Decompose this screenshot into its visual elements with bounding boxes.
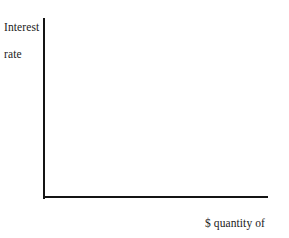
vertical-axis-label-line1: Interest xyxy=(4,21,42,35)
vertical-axis-label: Interest rate xyxy=(4,7,42,75)
vertical-axis-label-line2: rate xyxy=(4,48,42,62)
horizontal-axis-label-line1: $ quantity of xyxy=(186,217,284,231)
horizontal-axis-label: $ quantity of loanable funds xyxy=(186,203,284,238)
horizontal-axis-line xyxy=(43,196,268,198)
figure-canvas: Interest rate $ quantity of loanable fun… xyxy=(0,0,289,238)
plot-area xyxy=(45,18,268,196)
